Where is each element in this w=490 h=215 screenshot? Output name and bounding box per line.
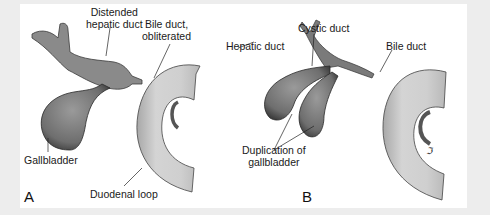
gallbladder-a-shape <box>41 84 110 150</box>
label-cystic-duct: Cystic duct <box>298 22 349 34</box>
label-line: obliterated <box>142 30 191 42</box>
duodenal-loop-b-shape <box>383 70 446 200</box>
panel-letter-b: B <box>302 188 312 205</box>
label-line: hepatic duct <box>86 18 143 30</box>
svg-text:ℑ: ℑ <box>426 146 434 156</box>
label-distended-hepatic-duct: Distended hepatic duct <box>86 6 143 30</box>
distended-hepatic-duct-shape <box>32 23 142 89</box>
label-bile-duct-obliterated: Bile duct, obliterated <box>142 18 191 42</box>
label-line: Duplication of <box>242 144 306 156</box>
label-hepatic-duct: Hepatic duct <box>226 40 284 52</box>
label-line: Distended <box>86 6 143 18</box>
label-gallbladder: Gallbladder <box>24 154 78 166</box>
label-duodenal-loop: Duodenal loop <box>90 188 158 200</box>
duodenal-loop-a-shape <box>137 65 200 192</box>
figure-panel: ℑ Distended hepatic duct Bile duct, obli… <box>20 4 467 208</box>
panel-letter-a: A <box>24 188 34 205</box>
label-line: Bile duct, <box>142 18 191 30</box>
label-bile-duct: Bile duct <box>386 40 426 52</box>
label-line: gallbladder <box>242 156 306 168</box>
anatomy-illustration: ℑ <box>20 4 467 208</box>
panel-a-drawing <box>32 23 200 192</box>
label-duplication-of-gallbladder: Duplication of gallbladder <box>242 144 306 168</box>
